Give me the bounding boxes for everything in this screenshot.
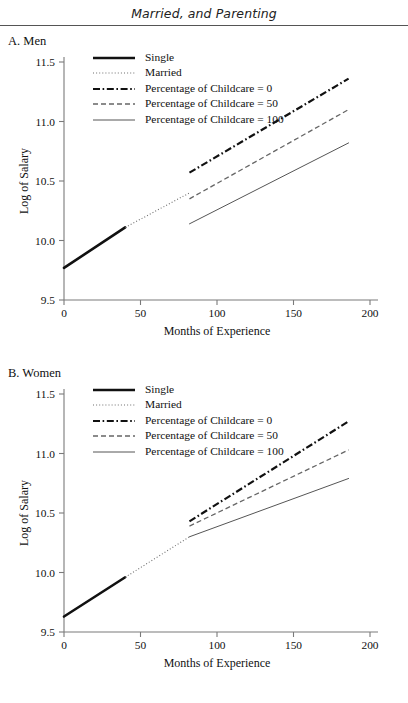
x-tick-label: 200	[361, 307, 378, 319]
series-line	[189, 478, 348, 536]
series-line	[189, 450, 348, 526]
series-line	[64, 577, 125, 616]
plot-men: 9.510.010.511.011.5050100150200Log of Sa…	[0, 28, 408, 358]
x-axis-title: Months of Experience	[164, 656, 271, 670]
x-tick-label: 150	[285, 639, 302, 651]
y-tick-label: 10.5	[35, 175, 55, 187]
x-tick-label: 50	[135, 307, 147, 319]
x-tick-label: 0	[61, 307, 67, 319]
running-head-text: Married, and Parenting	[131, 6, 277, 21]
y-tick-label: 11.0	[35, 116, 55, 128]
x-tick-label: 50	[135, 639, 147, 651]
series-line	[189, 79, 348, 173]
y-tick-label: 9.5	[41, 626, 56, 638]
plot-women: 9.510.010.511.011.5050100150200Log of Sa…	[0, 360, 408, 703]
y-tick-label: 10.0	[35, 567, 55, 579]
x-tick-label: 100	[208, 307, 225, 319]
series-line	[125, 193, 189, 228]
chart-svg-men: 9.510.010.511.011.5050100150200Log of Sa…	[0, 28, 408, 358]
running-head: Married, and Parenting	[0, 0, 408, 26]
series-line	[189, 110, 348, 199]
series-line	[125, 537, 189, 577]
y-axis-title: Log of Salary	[17, 148, 31, 214]
series-line	[64, 227, 125, 267]
x-tick-label: 100	[208, 639, 225, 651]
chart-svg-women: 9.510.010.511.011.5050100150200Log of Sa…	[0, 360, 408, 703]
y-tick-label: 9.5	[41, 294, 56, 306]
x-tick-label: 0	[61, 639, 67, 651]
y-axis-title: Log of Salary	[17, 480, 31, 546]
y-tick-label: 10.0	[35, 235, 55, 247]
y-tick-label: 11.0	[35, 448, 55, 460]
figure-page: Married, and Parenting A. Men SingleMarr…	[0, 0, 408, 703]
series-line	[189, 421, 348, 521]
x-tick-label: 200	[361, 639, 378, 651]
panel-women: B. Women SingleMarriedPercentage of Chil…	[0, 360, 408, 703]
x-tick-label: 150	[285, 307, 302, 319]
y-tick-label: 11.5	[35, 56, 55, 68]
header-rule	[0, 25, 408, 26]
y-tick-label: 10.5	[35, 507, 55, 519]
panel-men: A. Men SingleMarriedPercentage of Childc…	[0, 28, 408, 358]
series-line	[189, 143, 348, 224]
x-axis-title: Months of Experience	[164, 324, 271, 338]
y-tick-label: 11.5	[35, 388, 55, 400]
